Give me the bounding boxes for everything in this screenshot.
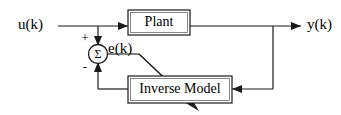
plant-block-label: Plant	[145, 14, 174, 29]
arrowhead-plant-input	[118, 22, 128, 30]
summing-junction-symbol: Σ	[95, 47, 102, 61]
input-signal-label: u(k)	[18, 16, 43, 33]
block-diagram-svg: Σ + - Plant Inverse Model u(k) e(k) y(k)	[0, 0, 341, 115]
summing-junction-minus-sign: -	[83, 59, 87, 74]
error-signal-label: e(k)	[108, 40, 132, 57]
arrowhead-output	[291, 22, 301, 30]
summing-junction-plus-sign: +	[81, 30, 88, 45]
inverse-model-block-label: Inverse Model	[139, 81, 220, 96]
block-diagram-canvas: Σ + - Plant Inverse Model u(k) e(k) y(k)	[0, 0, 341, 115]
output-signal-label: y(k)	[307, 16, 332, 33]
arrowhead-inverse-model-input	[232, 85, 242, 93]
